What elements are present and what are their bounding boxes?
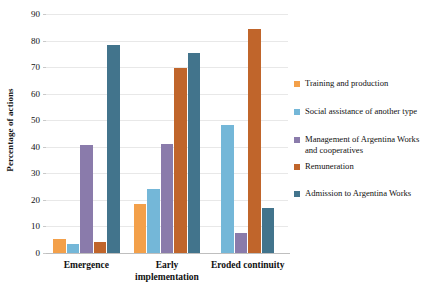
legend-item: Remuneration <box>294 161 354 172</box>
y-axis-tick-label: 50 <box>31 115 40 125</box>
y-axis-tick-mark <box>43 253 46 254</box>
legend-swatch-icon <box>294 137 300 143</box>
y-axis-tick-label: 20 <box>31 195 40 205</box>
bar <box>107 45 120 253</box>
legend-swatch-icon <box>294 81 300 87</box>
legend-label: Social assistance of another type <box>305 106 417 117</box>
bar <box>67 244 80 253</box>
bar <box>248 29 261 253</box>
bar <box>161 144 174 253</box>
bar <box>134 204 147 253</box>
y-axis-tick-label: 60 <box>31 89 40 99</box>
y-axis-tick-label: 30 <box>31 168 40 178</box>
y-axis-tick-label: 70 <box>31 62 40 72</box>
y-axis-tick-label: 90 <box>31 9 40 19</box>
legend-item: Training and production <box>294 78 388 89</box>
chart-figure: Percentage of actions 010203040506070809… <box>0 0 441 288</box>
x-axis-line <box>43 253 290 254</box>
legend-swatch-icon <box>294 109 300 115</box>
y-axis-title: Percentage of actions <box>0 0 20 260</box>
legend-swatch-icon <box>294 164 300 170</box>
plot-area: 0102030405060708090 <box>46 14 288 253</box>
bar <box>80 145 93 253</box>
y-axis-title-text: Percentage of actions <box>5 88 15 171</box>
legend-swatch-icon <box>294 191 300 197</box>
legend-item: Social assistance of another type <box>294 106 417 117</box>
legend-label: Management of Argentina Works and cooper… <box>305 134 419 155</box>
bar-group <box>207 14 288 253</box>
x-axis-label: Eroded continuity <box>207 259 288 271</box>
legend-item: Management of Argentina Works and cooper… <box>294 134 419 155</box>
bar <box>235 233 248 253</box>
bar <box>221 125 234 253</box>
y-axis-tick-label: 0 <box>36 248 41 258</box>
y-axis-tick-label: 80 <box>31 36 40 46</box>
legend-label: Admission to Argentina Works <box>305 188 411 199</box>
bar <box>262 208 275 253</box>
bar <box>94 242 107 253</box>
x-axis-label: Earlyimplementation <box>127 259 208 283</box>
bar-group <box>46 14 127 253</box>
bar <box>174 68 187 253</box>
legend-item: Admission to Argentina Works <box>294 188 411 199</box>
bar <box>188 53 201 253</box>
legend-label: Remuneration <box>305 161 354 172</box>
legend-label: Training and production <box>305 78 388 89</box>
y-axis-tick-label: 10 <box>31 221 40 231</box>
bar <box>147 189 160 253</box>
bar-group <box>127 14 208 253</box>
x-axis-label: Emergence <box>46 259 127 271</box>
y-axis-tick-label: 40 <box>31 142 40 152</box>
bar <box>53 239 66 253</box>
